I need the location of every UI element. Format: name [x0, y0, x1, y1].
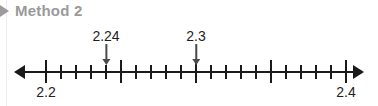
tick-minor: [60, 65, 62, 79]
tick-minor: [285, 65, 287, 79]
tick-minor: [330, 65, 332, 79]
callout-label: 2.24: [92, 28, 119, 44]
tick-minor: [105, 65, 107, 79]
arrow-down-icon: [102, 44, 111, 65]
callout-arrow-shaft: [105, 44, 107, 59]
tick-major: [45, 60, 47, 83]
arrow-left-icon: [14, 65, 25, 79]
tick-minor: [135, 65, 137, 79]
tick-minor: [150, 65, 152, 79]
number-line: 2.22.4 2.242.3: [0, 0, 378, 106]
axis-label-end: 2.4: [336, 84, 355, 100]
tick-minor: [75, 65, 77, 79]
arrow-down-icon: [192, 44, 201, 65]
tick-minor: [225, 65, 227, 79]
callout-label: 2.3: [186, 28, 205, 44]
value-callout: 2.24: [92, 28, 119, 65]
tick-minor: [300, 65, 302, 79]
callout-arrow-shaft: [195, 44, 197, 59]
tick-minor: [90, 65, 92, 79]
number-line-figure: Method 2 2.22.4 2.242.3: [0, 0, 378, 106]
tick-minor: [210, 65, 212, 79]
tick-major: [345, 60, 347, 83]
tick-minor: [255, 65, 257, 79]
tick-minor: [165, 65, 167, 79]
arrow-right-icon: [353, 65, 364, 79]
tick-minor: [180, 65, 182, 79]
value-callout: 2.3: [186, 28, 205, 65]
callout-arrow-head: [192, 59, 200, 65]
axis-label-start: 2.2: [36, 84, 55, 100]
callout-arrow-head: [102, 59, 110, 65]
tick-minor: [315, 65, 317, 79]
tick-major: [270, 60, 272, 83]
tick-major: [120, 60, 122, 83]
tick-minor: [240, 65, 242, 79]
number-line-axis: [22, 71, 356, 73]
